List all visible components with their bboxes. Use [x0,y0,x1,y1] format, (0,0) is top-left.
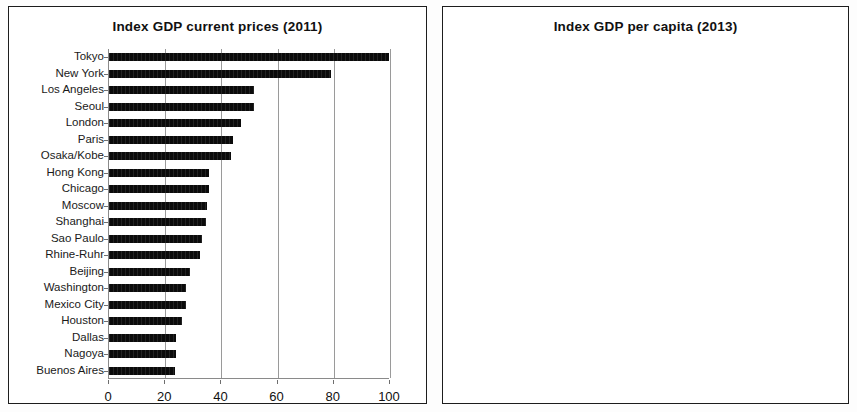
category-label: London [12,117,104,129]
right-chart-panel: Index GDP per capita (2013) 020406080100… [442,6,849,404]
category-label: Shanghai [12,216,104,228]
y-tick-mark [104,321,108,322]
y-tick-mark [104,354,108,355]
bar-row [109,181,389,198]
y-tick-mark [104,107,108,108]
bar [109,70,331,78]
y-tick-mark [104,173,108,174]
bar [109,136,233,144]
category-label: Buenos Aires [12,365,104,377]
y-tick-mark [104,156,108,157]
x-tick-mark [277,380,278,384]
y-tick-mark [104,74,108,75]
x-axis-tick-label: 0 [88,389,128,404]
bar-row [109,346,389,363]
bar [109,235,202,243]
y-tick-mark [104,338,108,339]
category-label: Moscow [12,200,104,212]
x-axis-tick-label: 20 [144,389,184,404]
bar [109,53,389,61]
chart-title-right: Index GDP per capita (2013) [443,19,848,34]
y-tick-mark [104,239,108,240]
category-label: Dallas [12,332,104,344]
bar [109,301,186,309]
x-axis-tick-label: 60 [257,389,297,404]
bar [109,350,176,358]
bar-rows [109,49,389,378]
bar-row [109,330,389,347]
gridline-100 [390,49,391,378]
bar-row [109,363,389,380]
bar-row [109,214,389,231]
bar [109,185,209,193]
bar-row [109,165,389,182]
bar-row [109,247,389,264]
left-chart-panel: Index GDP current prices (2011) 02040608… [8,6,427,404]
y-tick-mark [104,57,108,58]
x-axis-tick-label: 40 [200,389,240,404]
category-label: Houston [12,315,104,327]
bar-row [109,132,389,149]
bar-row [109,313,389,330]
chart-title-left: Index GDP current prices (2011) [9,19,426,34]
category-label: Sao Paulo [12,233,104,245]
x-tick-mark [389,380,390,384]
bar-row [109,82,389,99]
category-label: New York [12,68,104,80]
chart-index-gdp-per-capita: Index GDP per capita (2013) 020406080100… [443,7,848,403]
bar-row [109,264,389,281]
bar [109,202,207,210]
bar-row [109,297,389,314]
bar [109,86,254,94]
x-tick-mark [108,380,109,384]
plot-area-left [108,49,389,379]
category-label: Tokyo [12,51,104,63]
y-tick-mark [104,305,108,306]
category-label: Hong Kong [12,167,104,179]
bar-row [109,66,389,83]
y-tick-mark [104,272,108,273]
category-label: Mexico City [12,299,104,311]
category-label: Paris [12,134,104,146]
y-tick-mark [104,206,108,207]
category-label: Los Angeles [12,84,104,96]
bar [109,317,182,325]
x-axis-tick-label: 80 [313,389,353,404]
x-axis-tick-label: 100 [369,389,409,404]
y-tick-mark [104,371,108,372]
bar [109,103,254,111]
category-label: Chicago [12,183,104,195]
bar [109,152,231,160]
bar [109,268,190,276]
x-tick-mark [333,380,334,384]
bar [109,169,209,177]
bar [109,251,200,259]
y-tick-mark [104,140,108,141]
category-label: Osaka/Kobe [12,150,104,162]
category-label: Seoul [12,101,104,113]
bar [109,284,186,292]
bar [109,218,206,226]
bar-row [109,99,389,116]
bar-row [109,148,389,165]
bar [109,367,175,375]
bar-row [109,49,389,66]
category-label: Rhine-Ruhr [12,249,104,261]
category-label: Beijing [12,266,104,278]
bar-row [109,231,389,248]
y-tick-mark [104,189,108,190]
bar-row [109,280,389,297]
y-tick-mark [104,123,108,124]
bar-row [109,198,389,215]
y-tick-mark [104,90,108,91]
y-tick-mark [104,255,108,256]
chart-index-gdp-current-prices: Index GDP current prices (2011) 02040608… [9,7,426,403]
x-tick-mark [220,380,221,384]
bar-row [109,115,389,132]
x-tick-mark [164,380,165,384]
y-tick-mark [104,222,108,223]
figure-two-bar-charts: Index GDP current prices (2011) 02040608… [0,0,857,412]
bar [109,334,176,342]
bar [109,119,241,127]
y-tick-mark [104,288,108,289]
